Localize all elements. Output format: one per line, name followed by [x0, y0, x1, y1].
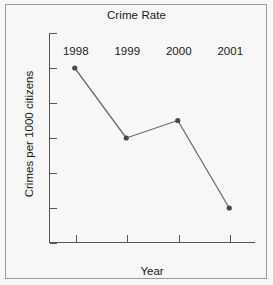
- data-point: [227, 205, 232, 210]
- y-tick: [50, 243, 57, 244]
- data-point: [124, 135, 129, 140]
- chart-figure: Crime Rate Crimes per 1000 citizens Year…: [0, 0, 273, 285]
- data-point: [175, 118, 180, 123]
- x-axis-title: Year: [49, 265, 255, 277]
- y-axis-title: Crimes per 1000 citizens: [23, 34, 35, 234]
- data-point: [72, 65, 77, 70]
- chart-title: Crime Rate: [0, 9, 273, 21]
- series-line: [75, 68, 230, 208]
- data-series-layer: [49, 33, 255, 243]
- series-markers: [72, 65, 232, 210]
